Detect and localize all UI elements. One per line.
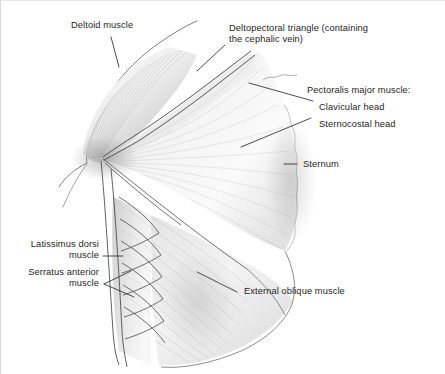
label-sternocostal-head: Sternocostal head	[319, 119, 396, 130]
label-deltoid-muscle: Deltoid muscle	[71, 20, 133, 31]
label-latissimus-dorsi-line2: muscle	[1, 250, 99, 261]
label-deltopectoral-triangle-line1: Deltopectoral triangle (containing	[229, 23, 368, 34]
label-external-oblique-muscle: External oblique muscle	[244, 286, 345, 297]
label-pectoralis-major-heading: Pectoralis major muscle:	[307, 85, 411, 96]
anatomical-figure: Deltoid muscle Deltopectoral triangle (c…	[0, 0, 445, 374]
label-serratus-anterior-line2: muscle	[1, 278, 99, 289]
label-clavicular-head: Clavicular head	[319, 102, 384, 113]
label-deltopectoral-triangle-line2: the cephalic vein)	[229, 34, 303, 45]
label-latissimus-dorsi-line1: Latissimus dorsi	[1, 239, 99, 250]
label-layer: Deltoid muscle Deltopectoral triangle (c…	[1, 1, 445, 374]
label-sternum: Sternum	[303, 159, 339, 170]
label-serratus-anterior-line1: Serratus anterior	[1, 267, 99, 278]
